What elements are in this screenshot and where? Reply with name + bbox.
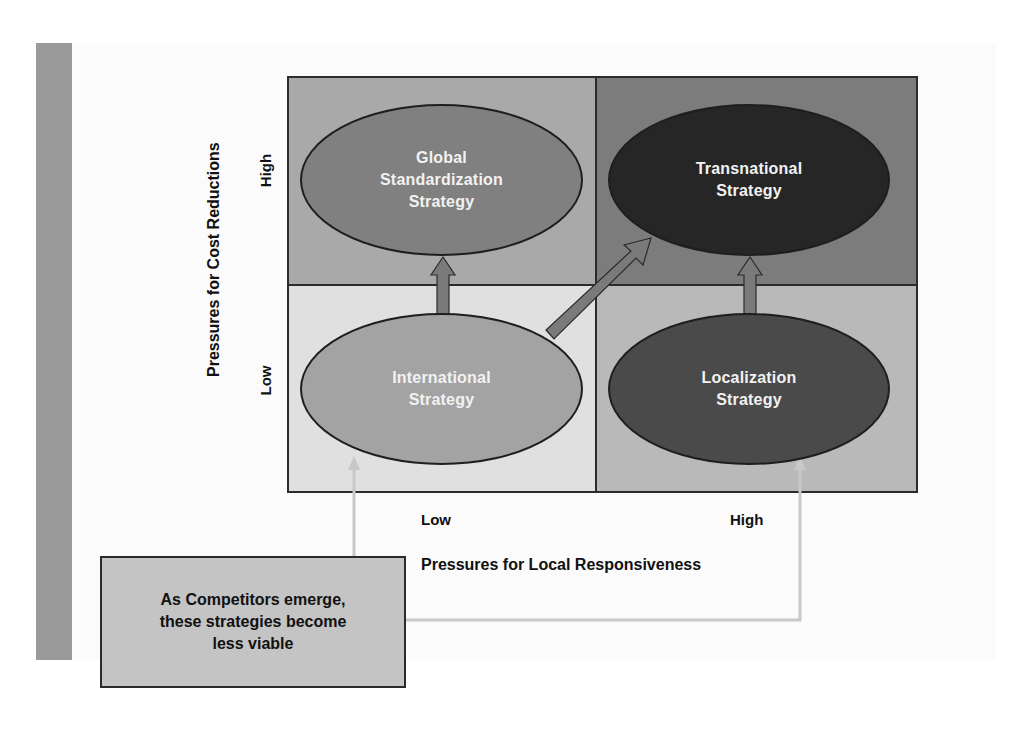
localization-strategy-label: Localization Strategy: [702, 367, 797, 411]
callout-text: As Competitors emerge, these strategies …: [160, 589, 347, 655]
ellipse-international-strategy: International Strategy: [300, 313, 583, 465]
ellipse-localization-strategy: Localization Strategy: [608, 313, 890, 465]
x-axis-low-label: Low: [421, 511, 451, 528]
y-axis-high-label: High: [257, 146, 274, 196]
x-axis-high-label: High: [730, 511, 763, 528]
y-axis-title: Pressures for Cost Reductions: [205, 157, 223, 377]
ellipse-transnational-strategy: Transnational Strategy: [608, 104, 890, 256]
arrow-up-left: [431, 257, 455, 315]
ellipse-global-standardization-strategy: Global Standardization Strategy: [300, 104, 583, 256]
transnational-strategy-label: Transnational Strategy: [696, 158, 803, 202]
international-strategy-label: International Strategy: [392, 367, 491, 411]
y-axis-low-label: Low: [257, 356, 274, 406]
connector-lines: [354, 465, 800, 620]
x-axis-title: Pressures for Local Responsiveness: [421, 556, 701, 574]
arrow-up-right: [738, 257, 762, 315]
arrow-diagonal: [546, 238, 651, 339]
competitors-callout-box: As Competitors emerge, these strategies …: [100, 556, 406, 688]
global-strategy-label: Global Standardization Strategy: [380, 147, 503, 213]
